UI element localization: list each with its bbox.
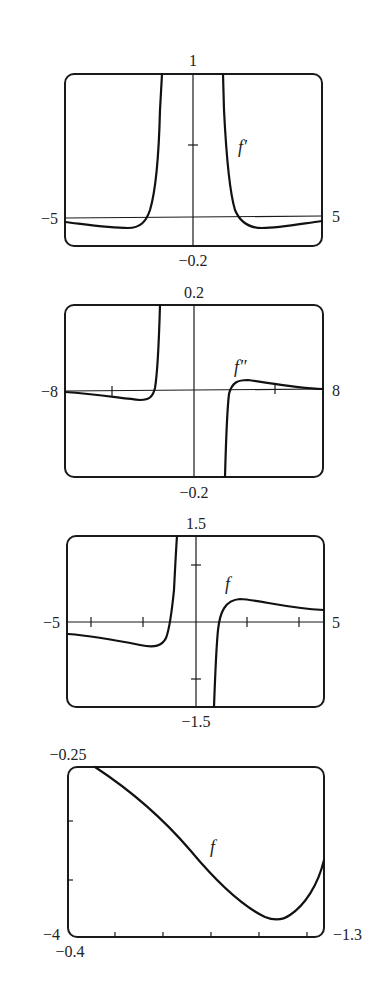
label-right: −1.3 [333, 926, 362, 943]
label-right: 8 [332, 382, 340, 399]
label-right: 5 [332, 208, 340, 225]
function-label: f′ [238, 137, 248, 157]
label-right: 5 [332, 614, 340, 631]
label-left: −5 [41, 210, 58, 227]
panel-f: 1.5 −1.5 −5 5 f [43, 515, 340, 730]
label-bottom: −1.5 [181, 713, 210, 730]
curve-f-double-prime-right [225, 380, 323, 477]
label-top: 1 [189, 52, 197, 69]
label-left: −4 [43, 926, 60, 943]
label-top: 0.2 [184, 284, 204, 301]
plot-frame [68, 767, 324, 937]
label-bottom: −0.4 [55, 943, 84, 960]
curve-f-prime-left [65, 74, 162, 228]
function-label: f″ [234, 357, 247, 377]
panel-f-double-prime: 0.2 −0.2 −8 8 f″ [41, 284, 340, 501]
label-left: −5 [43, 614, 60, 631]
label-left: −8 [41, 383, 58, 400]
curve-f-right [214, 599, 324, 707]
curve-f-double-prime-left [65, 305, 160, 400]
curve-f-left [68, 536, 177, 646]
label-top: −0.25 [49, 746, 86, 763]
label-bottom: −0.2 [179, 484, 208, 501]
label-bottom: −0.2 [178, 252, 207, 269]
panel-f-zoom: −0.25 −0.4 −4 −1.3 f [43, 746, 362, 960]
panel-f-prime: 1 −0.2 −5 5 f′ [41, 52, 340, 269]
function-label: f [225, 574, 233, 594]
derivative-graphs-figure: 1 −0.2 −5 5 f′ 0.2 −0.2 −8 8 f″ 1.5 −1.5… [0, 0, 379, 1007]
label-top: 1.5 [186, 515, 206, 532]
function-label: f [210, 837, 218, 857]
